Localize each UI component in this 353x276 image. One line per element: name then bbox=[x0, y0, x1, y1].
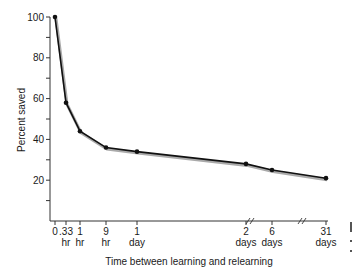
x-tick-label: .33 bbox=[59, 226, 73, 237]
data-point bbox=[270, 168, 275, 173]
data-points bbox=[53, 15, 329, 181]
y-ticks: 20406080100 bbox=[27, 12, 50, 201]
x-tick-label: 1 bbox=[77, 226, 83, 237]
y-tick-label: 20 bbox=[33, 175, 45, 186]
data-point bbox=[64, 100, 69, 105]
page-edge-fragment bbox=[350, 222, 352, 232]
page-edge-fragment bbox=[350, 250, 352, 252]
curve-shadow bbox=[56, 19, 327, 180]
x-tick-unit: days bbox=[315, 237, 336, 248]
data-point bbox=[135, 149, 140, 154]
x-tick-label: 6 bbox=[269, 226, 275, 237]
x-tick-unit: hr bbox=[102, 237, 112, 248]
x-tick-unit: hr bbox=[76, 237, 86, 248]
savings-line bbox=[55, 17, 326, 178]
x-tick-unit: days bbox=[235, 237, 256, 248]
x-tick-label: 31 bbox=[320, 226, 332, 237]
x-tick-unit: days bbox=[261, 237, 282, 248]
x-axis-title: Time between learning and relearning bbox=[105, 256, 273, 267]
data-point bbox=[53, 15, 58, 20]
y-tick-label: 80 bbox=[33, 52, 45, 63]
x-tick-unit: hr bbox=[62, 237, 72, 248]
y-tick-label: 100 bbox=[27, 12, 44, 23]
x-tick-label: 9 bbox=[103, 226, 109, 237]
x-tick-label: 2 bbox=[243, 226, 249, 237]
page-edge-fragment bbox=[350, 240, 352, 242]
data-point bbox=[324, 176, 329, 181]
x-tick-unit: day bbox=[129, 237, 145, 248]
data-point bbox=[78, 129, 83, 134]
x-ticks: 0.33hr1hr9hr1day2days6days31days bbox=[52, 221, 336, 248]
x-tick-label: 1 bbox=[134, 226, 140, 237]
x-tick-label: 0 bbox=[52, 226, 58, 237]
y-axis-title: Percent saved bbox=[16, 88, 27, 152]
data-point bbox=[104, 145, 109, 150]
y-tick-label: 60 bbox=[33, 93, 45, 104]
data-point bbox=[244, 162, 249, 167]
y-tick-label: 40 bbox=[33, 134, 45, 145]
forgetting-curve-chart: 20406080100 0.33hr1hr9hr1day2days6days31… bbox=[0, 0, 353, 276]
